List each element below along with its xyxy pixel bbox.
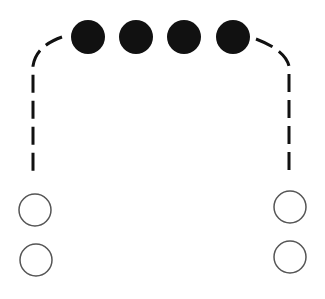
diagram-canvas <box>0 0 325 299</box>
open-circle-group <box>19 191 306 276</box>
open-circle-1 <box>19 194 51 226</box>
right-dashed-path <box>256 39 289 174</box>
filled-dot-2 <box>119 20 153 54</box>
filled-dot-1 <box>71 20 105 54</box>
left-dashed-path <box>33 37 62 174</box>
dashed-connector-group <box>33 37 289 174</box>
filled-dot-3 <box>167 20 201 54</box>
filled-dot-4 <box>216 20 250 54</box>
open-circle-3 <box>274 191 306 223</box>
open-circle-4 <box>274 241 306 273</box>
open-circle-2 <box>20 244 52 276</box>
filled-dot-row <box>71 20 250 54</box>
diagram-svg <box>0 0 325 299</box>
